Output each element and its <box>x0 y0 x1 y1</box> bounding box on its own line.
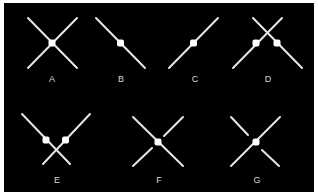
figure-g <box>231 117 280 166</box>
figure-d <box>233 18 302 68</box>
label-d: D <box>258 74 278 84</box>
figures-canvas <box>0 0 318 195</box>
dot-icon <box>62 137 69 144</box>
dot-icon <box>253 40 260 47</box>
label-b: B <box>111 74 131 84</box>
dot-icon <box>274 40 281 47</box>
figure-f <box>133 117 183 166</box>
dot-icon <box>253 139 260 146</box>
dot-icon <box>190 40 197 47</box>
label-g: G <box>247 175 267 185</box>
figure-b <box>96 18 145 68</box>
dot-icon <box>155 139 162 146</box>
label-c: C <box>185 74 205 84</box>
dot-icon <box>49 40 56 47</box>
dot-icon <box>43 137 50 144</box>
figure-e <box>22 114 90 164</box>
dot-icon <box>117 40 124 47</box>
figure-c <box>169 18 218 68</box>
label-a: A <box>42 74 62 84</box>
label-f: F <box>149 175 169 185</box>
figure-a <box>28 18 77 68</box>
label-e: E <box>47 175 67 185</box>
